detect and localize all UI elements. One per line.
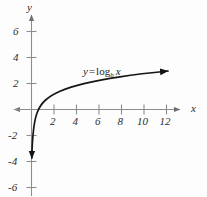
x-tick-label-2: 2 (50, 116, 56, 127)
x-tick-label-4: 4 (73, 116, 79, 127)
y-tick-label-minus-2: -2 (8, 130, 17, 141)
equation-function: log (96, 65, 110, 77)
equation-argument: x (114, 65, 121, 77)
equation-operator: = (88, 65, 96, 77)
x-tick-label-10: 10 (137, 116, 148, 127)
y-tick-label-2: 2 (13, 78, 19, 89)
log-function-graph: 6 4 2 -2 -4 -6 2 4 6 8 10 12 y x y=logbx (0, 0, 207, 197)
y-tick-label-minus-6: -6 (8, 182, 17, 193)
x-axis-label: x (191, 103, 196, 114)
x-tick-label-8: 8 (118, 116, 124, 127)
y-tick-label-6: 6 (13, 26, 19, 37)
plot-canvas (0, 0, 207, 197)
equation-label: y=logbx (83, 66, 121, 79)
y-axis-label: y (27, 2, 32, 13)
y-tick-label-4: 4 (13, 52, 19, 63)
y-tick-label-minus-4: -4 (8, 156, 17, 167)
x-tick-label-6: 6 (95, 116, 101, 127)
x-tick-label-12: 12 (160, 116, 171, 127)
